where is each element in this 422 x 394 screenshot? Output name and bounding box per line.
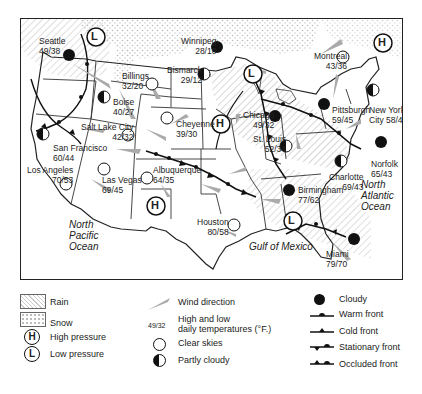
city-miami: Miami79/70 [326, 249, 349, 269]
clear-skies-icon [153, 338, 166, 351]
city-lasvegas: Las Vegas69/45 [102, 175, 142, 195]
clear-icon-houston [228, 219, 240, 231]
snow-swatch [20, 312, 46, 327]
pressure-letter: L [288, 215, 295, 225]
legend-clear-label: Clear skies [178, 338, 223, 348]
city-norfolk: Norfolk65/43 [371, 159, 398, 179]
wind-direction-icon [148, 298, 172, 312]
warm-front-icon [310, 310, 334, 318]
city-houston: Houston80/58 [197, 217, 229, 237]
label-pacific-ocean: NorthPacificOcean [69, 219, 98, 252]
city-pittsburgh: Pittsburgh59/45 [332, 105, 370, 125]
high-pressure-icon: H [24, 329, 40, 345]
cloudy-icon [314, 294, 325, 305]
legend-temps-sample: 49/32 [148, 321, 166, 331]
city-cheyenne: Cheyenne39/30 [176, 119, 215, 139]
legend-cold-front-label: Cold front [339, 326, 378, 336]
city-montreal: Montreal43/36 [314, 51, 347, 71]
cloudy-icon-miami [348, 233, 360, 245]
stationary-front-icon [310, 341, 334, 353]
pressure-letter: H [216, 118, 224, 128]
legend-cloudy-label: Cloudy [339, 294, 367, 304]
label-atlantic-ocean: NorthAtlanticOcean [361, 179, 394, 212]
cloudy-icon-norfolk [375, 136, 387, 148]
clear-icon-albuquerque [141, 172, 153, 184]
weather-map: L H L H H L Seattle49/38 Winnipeg28/10 B… [20, 18, 403, 280]
clear-icon-cheyenne [161, 112, 173, 124]
legend-temps-line2: daily temperatures (°F.) [178, 324, 271, 334]
rain-swatch [20, 294, 46, 309]
city-boise: Boise40/27 [113, 97, 134, 117]
partly-cloudy-icon [153, 354, 166, 367]
legend-stationary-front-label: Stationary front [339, 342, 400, 352]
city-saltlake: Salt Lake City42/32 [81, 122, 133, 142]
cloudy-icon-birmingham [283, 184, 295, 196]
occluded-front-icon [310, 358, 334, 366]
legend-rain-label: Rain [50, 297, 69, 307]
pressure-letter: H [151, 200, 159, 210]
city-birmingham: Birmingham77/62 [298, 185, 343, 205]
cloudy-icon-pittsburgh [318, 98, 330, 110]
city-billings: Billings32/20 [122, 71, 149, 91]
city-seattle: Seattle49/38 [39, 36, 65, 56]
low-pressure-icon: L [24, 346, 40, 362]
city-albuquerque: Albuquerque64/35 [153, 165, 201, 185]
partly-cloudy-icon-boise [98, 91, 110, 103]
label-gulf-of-mexico: Gulf of Mexico [249, 241, 313, 252]
city-sf: San Francisco60/44 [53, 143, 107, 163]
city-bismarck: Bismarck29/12 [167, 65, 202, 85]
pressure-letter: H [378, 37, 386, 47]
city-nyc: New YorkCity 58/42 [369, 105, 403, 125]
legend-warm-front-label: Warm front [339, 309, 383, 319]
legend-partly-cloudy-label: Partly cloudy [178, 355, 230, 365]
legend-wind-label: Wind direction [178, 297, 235, 307]
legend-occluded-front-label: Occluded front [339, 359, 398, 369]
legend-high-pressure-label: High pressure [50, 332, 106, 342]
legend-low-pressure-label: Low pressure [50, 349, 104, 359]
city-winnipeg: Winnipeg28/10 [181, 36, 216, 56]
pressure-letter: L [248, 68, 255, 78]
clear-icon-lasvegas [98, 163, 110, 175]
pressure-letter: L [91, 31, 98, 41]
city-chicago: Chicago49/32 [243, 110, 274, 130]
partly-cloudy-icon-charlotte [335, 155, 347, 167]
legend-temps-line1: High and low [178, 314, 230, 324]
cold-front-icon [310, 326, 334, 334]
city-stlouis: St. Louis52/34 [253, 134, 286, 154]
legend-snow-label: Snow [50, 318, 73, 328]
partly-cloudy-icon-sf [37, 128, 49, 140]
partly-cloudy-icon-nyc [367, 84, 379, 96]
city-la: Los Angeles70/53 [27, 165, 73, 185]
